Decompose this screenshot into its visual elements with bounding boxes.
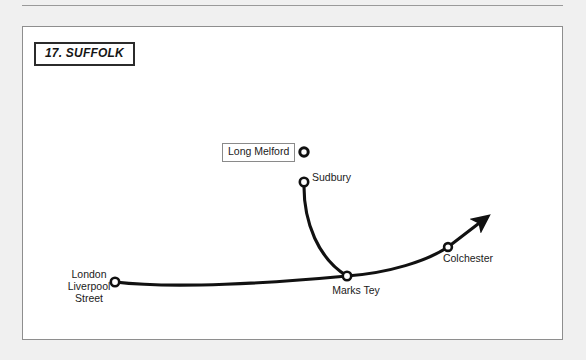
station-label-line: Street [58,292,120,304]
station-marker-sudbury [300,178,308,186]
station-label-sudbury: Sudbury [312,171,351,183]
diagram-title-box: 17. SUFFOLK [34,42,135,66]
top-divider-rule [22,5,563,6]
diagram-panel: 17. SUFFOLK London Liverpool Street Mark… [22,26,563,340]
station-marker-long-melford [300,148,308,156]
page-background: 17. SUFFOLK London Liverpool Street Mark… [0,0,586,360]
station-label-line: London [58,268,120,280]
station-marker-colchester [444,243,452,251]
station-marker-marks-tey [343,272,351,280]
station-label-long-melford: Long Melford [222,143,295,162]
station-label-london-liverpool-street: London Liverpool Street [58,268,120,304]
page-title: 17. SUFFOLK [45,46,124,60]
station-label-colchester: Colchester [423,252,513,264]
route-main-line-west [115,276,347,285]
route-sudbury-branch [304,182,347,276]
route-main-line-continuation-arrow [448,224,478,247]
station-label-marks-tey: Marks Tey [317,284,395,296]
station-label-line: Liverpool [58,280,120,292]
